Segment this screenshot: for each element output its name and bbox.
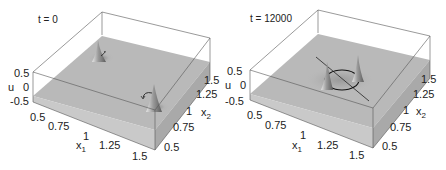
- x2-axis-label: x2: [201, 107, 211, 121]
- surface-plane: [33, 36, 210, 130]
- x2-tick-4: 1.5: [204, 75, 219, 86]
- x2-tick-3: 1.25: [196, 89, 217, 100]
- plot-panel-t12000: t = 12000 0.5 u 0 -0.5 0.5 0.75 1 1.25 1…: [223, 0, 446, 170]
- z-tick-max: 0.5: [227, 66, 242, 77]
- central-ripple: [306, 67, 374, 93]
- x2-tick-2: 1: [403, 105, 409, 116]
- x2-tick-4: 1.5: [421, 74, 436, 85]
- x1-tick-4: 1.5: [132, 151, 147, 162]
- x2-tick-0: 0.5: [164, 142, 179, 153]
- x1-tick-1: 0.75: [265, 120, 286, 131]
- z-tick-min: -0.5: [225, 96, 244, 107]
- z-tick-zero: 0: [23, 82, 29, 93]
- x1-tick-4: 1.5: [349, 150, 364, 161]
- z-tick-min: -0.5: [10, 96, 29, 107]
- x2-tick-1: 0.75: [173, 122, 194, 133]
- x2-tick-1: 0.75: [390, 122, 411, 133]
- x1-axis-label: x1: [76, 140, 86, 154]
- time-label: t = 0: [38, 15, 58, 25]
- x1-tick-0: 0.5: [30, 112, 45, 123]
- z-axis-label: u: [225, 80, 231, 91]
- z-tick-zero: 0: [240, 80, 246, 91]
- x2-tick-3: 1.25: [413, 89, 434, 100]
- x1-tick-0: 0.5: [247, 110, 262, 121]
- x2-axis-label: x2: [416, 106, 426, 120]
- x1-tick-1: 0.75: [48, 121, 69, 132]
- plot-panel-t0: t = 0 0.5 u 0 -0.5 0.5 0.75 1 1.25 1.5 x…: [0, 0, 223, 170]
- time-label: t = 12000: [250, 14, 292, 24]
- x1-tick-3: 1.25: [99, 140, 120, 151]
- x2-tick-0: 0.5: [382, 141, 397, 152]
- x1-axis-label: x1: [292, 140, 302, 154]
- z-tick-max: 0.5: [14, 68, 29, 79]
- x2-tick-2: 1: [186, 106, 192, 117]
- x1-tick-3: 1.25: [317, 140, 338, 151]
- z-axis-label: u: [8, 82, 14, 93]
